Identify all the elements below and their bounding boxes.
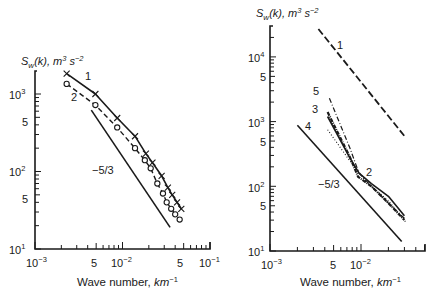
circle-marker bbox=[148, 166, 153, 171]
left-curve-1-label: 1 bbox=[85, 70, 91, 82]
svg-text:10−3: 10−3 bbox=[261, 257, 282, 271]
svg-text:101: 101 bbox=[9, 242, 25, 256]
circle-marker bbox=[169, 206, 174, 211]
right-y-ticks bbox=[270, 37, 276, 251]
left-chart: Sw(k), m3 s−2 103 5 102 5 101 10−3 5 10−… bbox=[9, 54, 220, 288]
x-marker bbox=[64, 71, 70, 77]
circle-marker bbox=[132, 146, 137, 151]
right-slope-label: −5/3 bbox=[318, 178, 340, 190]
left-curve-2-label: 2 bbox=[71, 91, 77, 103]
x-marker bbox=[92, 91, 98, 97]
curve-2 bbox=[67, 84, 180, 220]
svg-text:101: 101 bbox=[248, 244, 264, 258]
svg-text:10−3: 10−3 bbox=[26, 255, 47, 269]
x-marker bbox=[149, 160, 155, 166]
circle-marker bbox=[64, 81, 69, 86]
circle-marker bbox=[164, 200, 169, 205]
right-curve-2-label: 2 bbox=[366, 166, 372, 178]
curve--5-3 bbox=[297, 125, 401, 241]
svg-text:5: 5 bbox=[22, 193, 28, 205]
svg-text:103: 103 bbox=[9, 87, 25, 101]
x-marker bbox=[132, 133, 138, 139]
right-curve-4-label: 4 bbox=[305, 120, 311, 132]
left-x-ticks bbox=[35, 242, 210, 249]
circle-marker bbox=[142, 158, 147, 163]
left-y-tick-labels: 103 5 102 5 101 bbox=[9, 87, 28, 256]
svg-text:102: 102 bbox=[9, 164, 25, 178]
x-marker bbox=[178, 206, 184, 212]
x-marker bbox=[114, 115, 120, 121]
left-y-axis-title: Sw(k), m3 s−2 bbox=[21, 54, 84, 70]
svg-text:104: 104 bbox=[248, 50, 264, 64]
left-axes bbox=[35, 71, 210, 249]
svg-text:5: 5 bbox=[177, 257, 183, 269]
x-marker bbox=[174, 199, 180, 205]
svg-text:5: 5 bbox=[330, 259, 336, 271]
left-y-ticks bbox=[35, 94, 41, 249]
circle-marker bbox=[115, 125, 120, 130]
left-x-axis-title: Wave number, km−1 bbox=[77, 275, 178, 288]
right-curve-5-label: 5 bbox=[313, 85, 319, 97]
curve-5 bbox=[329, 98, 404, 218]
circle-marker bbox=[173, 212, 178, 217]
svg-text:5: 5 bbox=[91, 257, 97, 269]
right-x-ticks bbox=[270, 244, 425, 251]
circle-marker bbox=[177, 217, 182, 222]
x-marker bbox=[165, 185, 171, 191]
left-x-tick-labels: 10−3 5 10−2 5 10−1 bbox=[26, 255, 220, 269]
circle-marker bbox=[155, 181, 160, 186]
right-y-tick-labels: 104 5 103 5 102 5 101 bbox=[248, 50, 266, 258]
right-curve-1-label: 1 bbox=[337, 39, 343, 51]
left-curves bbox=[64, 71, 185, 228]
right-curves bbox=[297, 29, 405, 242]
circle-marker bbox=[93, 102, 98, 107]
svg-text:5: 5 bbox=[260, 136, 266, 148]
left-slope-label: −5/3 bbox=[92, 164, 114, 176]
x-marker bbox=[169, 192, 175, 198]
figure: Sw(k), m3 s−2 103 5 102 5 101 10−3 5 10−… bbox=[0, 0, 441, 299]
svg-text:102: 102 bbox=[248, 180, 264, 194]
svg-text:10−1: 10−1 bbox=[199, 255, 220, 269]
right-chart: Sw(k), m3 s−2 104 5 103 5 102 5 101 10−3… bbox=[248, 6, 425, 288]
right-curve-3-label: 3 bbox=[312, 103, 318, 115]
circle-marker bbox=[160, 191, 165, 196]
right-y-axis-title: Sw(k), m3 s−2 bbox=[256, 6, 319, 22]
svg-text:5: 5 bbox=[260, 71, 266, 83]
x-marker bbox=[159, 173, 165, 179]
svg-text:5: 5 bbox=[260, 200, 266, 212]
x-marker bbox=[143, 151, 149, 157]
right-x-tick-labels: 10−3 5 10−2 bbox=[261, 257, 371, 271]
svg-text:103: 103 bbox=[248, 115, 264, 129]
svg-text:10−2: 10−2 bbox=[111, 255, 132, 269]
right-x-axis-title: Wave number, km−1 bbox=[300, 275, 401, 288]
svg-text:10−2: 10−2 bbox=[350, 257, 371, 271]
svg-text:5: 5 bbox=[22, 116, 28, 128]
curve-1 bbox=[67, 74, 182, 209]
